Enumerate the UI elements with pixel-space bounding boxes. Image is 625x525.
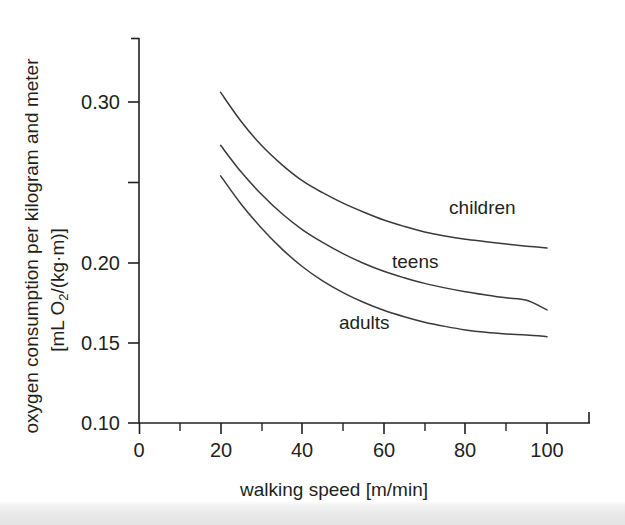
y-axis-title-line-2: [mL O2/(kg·m)] bbox=[47, 228, 71, 352]
y-axis-title-unit-suffix: /(kg·m)] bbox=[47, 228, 68, 293]
y-tick-label-015: 0.15 bbox=[81, 332, 120, 354]
series-label-teens: teens bbox=[392, 251, 438, 272]
y-axis-title-unit-subscript: 2 bbox=[56, 294, 71, 301]
series-label-children: children bbox=[449, 197, 516, 218]
y-axis-title-line-1: oxygen consumption per kilogram and mete… bbox=[21, 58, 42, 434]
y-tick-label-030: 0.30 bbox=[81, 91, 120, 113]
oxygen-consumption-line-chart: 0.30 0.20 0.15 0.10 0 20 40 60 80 100 bbox=[0, 0, 625, 525]
series-label-adults: adults bbox=[339, 312, 390, 333]
x-tick-label-60: 60 bbox=[373, 439, 395, 461]
scanned-page-bottom-edge bbox=[0, 501, 625, 525]
y-tick-label-020: 0.20 bbox=[81, 252, 120, 274]
x-tick-label-40: 40 bbox=[291, 439, 313, 461]
x-tick-label-100: 100 bbox=[530, 439, 563, 461]
y-axis-title-unit-prefix: [mL O bbox=[47, 301, 68, 352]
y-tick-label-010: 0.10 bbox=[81, 412, 120, 434]
x-tick-label-80: 80 bbox=[454, 439, 476, 461]
x-tick-label-20: 20 bbox=[210, 439, 232, 461]
chart-figure: 0.30 0.20 0.15 0.10 0 20 40 60 80 100 bbox=[0, 0, 625, 525]
x-axis-title: walking speed [m/min] bbox=[239, 479, 428, 500]
x-tick-label-0: 0 bbox=[133, 439, 144, 461]
